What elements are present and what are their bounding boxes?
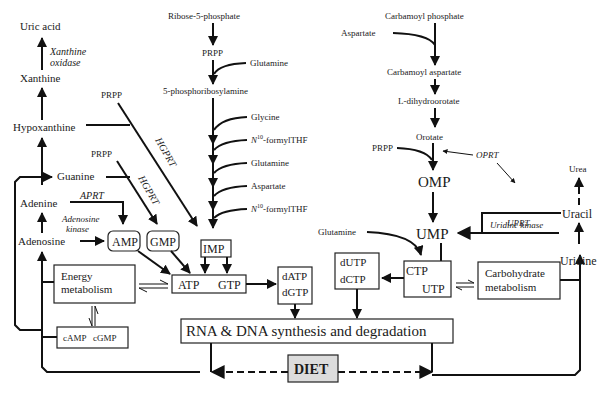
arrowhead-1 xyxy=(208,135,218,145)
glutamine-label-2: Glutamine xyxy=(251,158,289,168)
oprt-pointer xyxy=(443,151,473,155)
prpp-mid-label: PRPP xyxy=(91,149,112,159)
ribose-5-phosphate-label: Ribose-5-phosphate xyxy=(168,11,240,21)
dctp-label: dCTP xyxy=(340,273,366,285)
orotate-label: Orotate xyxy=(416,132,443,142)
energy-label-1: Energy xyxy=(61,270,93,282)
arrowhead-5 xyxy=(208,219,218,229)
energy-label-2: metabolism xyxy=(61,283,113,295)
equilibrium-carb-forward xyxy=(456,280,474,283)
arrowhead-4 xyxy=(208,201,218,211)
aspartate-pyr-label: Aspartate xyxy=(341,28,375,38)
gtp-label: GTP xyxy=(218,278,241,292)
formylthf-input-1 xyxy=(214,140,247,150)
arrow-gmp-to-gtp xyxy=(171,251,190,273)
ctp-label: CTP xyxy=(406,264,428,278)
guanine-label: Guanine xyxy=(57,170,94,182)
prpp-pyr-label: PRPP xyxy=(372,143,393,153)
aprt-label: APRT xyxy=(79,190,105,201)
carbamoyl-aspartate-label: Carbamoyl aspartate xyxy=(387,67,461,77)
imp-label: IMP xyxy=(203,242,225,256)
dihydroorotate-label: L-dihydroorotate xyxy=(398,96,459,106)
adenine-label: Adenine xyxy=(20,197,57,209)
atp-label: ATP xyxy=(178,278,200,292)
xanthine-label: Xanthine xyxy=(20,72,60,84)
formylthf-text-1: -formylTHF xyxy=(263,135,308,145)
arrow-hgprt-to-imp xyxy=(118,103,197,226)
equilibrium-reverse xyxy=(139,288,168,292)
amp-label: AMP xyxy=(112,235,138,249)
glutamine-pyr-label: Glutamine xyxy=(318,227,356,237)
uridine-label: Uridine xyxy=(560,254,597,268)
arrowhead-3 xyxy=(208,178,218,188)
adenosine-label: Adenosine xyxy=(18,235,65,247)
bottom-left-loop xyxy=(42,360,200,372)
carb-label-1: Carbohydrate xyxy=(485,267,545,279)
prpp-label: PRPP xyxy=(202,48,223,58)
equilibrium-down xyxy=(89,306,92,326)
prpp-top-label: PRPP xyxy=(101,90,122,100)
uridine-kinase-label: Uridine kinase xyxy=(490,220,543,230)
cgmp-label: cGMP xyxy=(93,333,117,343)
ump-label: UMP xyxy=(416,226,449,242)
urea-label: Urea xyxy=(569,164,587,174)
arrow-amp-to-atp xyxy=(138,251,170,274)
oprt-to-uprt-pointer xyxy=(497,163,515,183)
diet-label: DIET xyxy=(294,362,329,377)
phosphoribosylamine-label: 5-phosphoribosylamine xyxy=(163,86,248,96)
formylthf-text-2: -formylTHF xyxy=(263,204,308,214)
oprt-label: OPRT xyxy=(476,150,499,160)
adenosine-kinase-label-2: kinase xyxy=(66,224,89,234)
formylthf-label-2: N10-formylTHF xyxy=(250,203,308,214)
rna-dna-label: RNA & DNA synthesis and degradation xyxy=(186,323,427,339)
datp-label: dATP xyxy=(282,270,307,282)
carbamoyl-phosphate-label: Carbamoyl phosphate xyxy=(385,11,464,21)
glycine-label: Glycine xyxy=(251,112,280,122)
aspartate-pyr-input xyxy=(393,33,435,45)
camp-label: cAMP xyxy=(63,333,87,343)
glutamine-to-ctp xyxy=(367,232,421,255)
carb-label-2: metabolism xyxy=(485,281,537,293)
equilibrium-up xyxy=(95,306,98,326)
aspartate-input xyxy=(214,186,247,196)
metabolism-diagram: Uric acid Xanthine oxidase Xanthine Hypo… xyxy=(0,0,612,395)
dgtp-label: dGTP xyxy=(282,286,308,298)
glutamine-label-1: Glutamine xyxy=(250,58,288,68)
equilibrium-carb-reverse xyxy=(456,287,474,290)
omp-label: OMP xyxy=(418,174,451,190)
adenosine-kinase-label-1: Adenosine xyxy=(61,214,100,224)
formylthf-input-2 xyxy=(214,209,247,218)
arrowhead-2 xyxy=(208,155,218,165)
xanthine-oxidase-label-1: Xanthine xyxy=(49,46,87,57)
formylthf-label-1: N10-formylTHF xyxy=(250,134,308,145)
prpp-pyr-input xyxy=(397,148,432,160)
hgprt-label-2: HGPRT xyxy=(136,173,163,209)
equilibrium-forward xyxy=(139,280,168,284)
glycine-input xyxy=(214,117,247,130)
glutamine-input-2 xyxy=(214,163,247,173)
gmp-label: GMP xyxy=(150,235,176,249)
dutp-label: dUTP xyxy=(340,256,366,268)
glutamine-input-1 xyxy=(214,63,246,74)
aspartate-label: Aspartate xyxy=(251,181,285,191)
xanthine-oxidase-label-2: oxidase xyxy=(50,57,81,68)
utp-label: UTP xyxy=(422,282,445,296)
uric-acid-label: Uric acid xyxy=(20,20,61,32)
hypoxanthine-label: Hypoxanthine xyxy=(13,121,75,133)
uracil-label: Uracil xyxy=(562,207,593,221)
